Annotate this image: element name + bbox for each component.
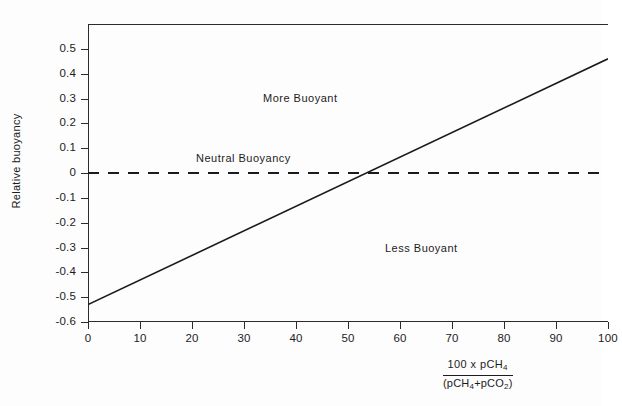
y-axis-tick-label: 0.4 [30, 68, 76, 80]
y-axis-tick-label-text: 0.5 [36, 43, 76, 55]
y-axis-tick-label-text: -0.2 [36, 217, 76, 229]
y-axis-tick-label: -0.2 [30, 217, 76, 229]
y-axis-tick-label-text: -0.1 [36, 192, 76, 204]
y-axis-tick-label-text: 0.4 [36, 68, 76, 80]
x-axis-tick [140, 322, 141, 329]
x-axis-tick-label: 70 [432, 332, 472, 345]
x-axis-tick-label: 60 [380, 332, 420, 345]
x-axis-tick-label: 50 [328, 332, 368, 345]
relative-buoyancy-solid-line [88, 59, 608, 305]
x-axis-denominator-mid: +pCO [474, 377, 504, 389]
x-axis-tick [556, 322, 557, 329]
x-axis-tick-label: 80 [484, 332, 524, 345]
y-axis-title: Relative buoyancy [10, 101, 22, 221]
x-axis-tick-label: 20 [172, 332, 212, 345]
y-axis-tick-label: -0.6 [30, 316, 76, 328]
x-axis-tick-label: 30 [224, 332, 264, 345]
y-axis-tick-label: -0.3 [30, 242, 76, 254]
x-axis-tick-label: 0 [68, 332, 108, 345]
x-axis-title-numerator: 100 x pCH4 [443, 358, 513, 376]
x-axis-tick [192, 322, 193, 329]
y-axis-tick-label: 0.2 [30, 117, 76, 129]
y-axis-tick-label-text: -0.3 [36, 242, 76, 254]
y-axis-tick-label: 0.3 [30, 93, 76, 105]
y-axis-tick-label-text: 0.2 [36, 117, 76, 129]
x-axis-tick [244, 322, 245, 329]
x-axis-title: 100 x pCH4 (pCH4+pCO2) [443, 358, 513, 393]
x-axis-denominator-close: ) [509, 377, 513, 389]
annotation-more-buoyant: More Buoyant [263, 92, 337, 104]
y-axis-tick-label-text: 0 [36, 167, 76, 179]
y-axis-tick-label: -0.1 [30, 192, 76, 204]
x-axis-numerator-subscript: 4 [503, 363, 508, 372]
y-axis-tick-label: 0.5 [30, 43, 76, 55]
plot-canvas [88, 24, 608, 322]
x-axis-tick [452, 322, 453, 329]
y-axis-tick-label: -0.5 [30, 291, 76, 303]
x-axis-tick-label: 90 [536, 332, 576, 345]
x-axis-tick-label: 10 [120, 332, 160, 345]
y-axis-tick-label-text: 0.1 [36, 142, 76, 154]
x-axis-tick [348, 322, 349, 329]
x-axis-tick [296, 322, 297, 329]
x-axis-tick-label: 40 [276, 332, 316, 345]
x-axis-numerator-text: 100 x pCH [448, 358, 504, 370]
x-axis-tick [400, 322, 401, 329]
annotation-less-buoyant: Less Buoyant [385, 242, 458, 254]
x-axis-tick [504, 322, 505, 329]
x-axis-denominator-open: (pCH [443, 377, 469, 389]
y-axis-tick-label-text: 0.3 [36, 93, 76, 105]
x-axis-tick [608, 322, 609, 329]
y-axis-tick-label-text: -0.5 [36, 291, 76, 303]
x-axis-title-denominator: (pCH4+pCO2) [443, 376, 513, 393]
y-axis-tick-label: -0.4 [30, 266, 76, 278]
y-axis-tick-label: 0 [30, 167, 76, 179]
annotation-neutral-buoyancy: Neutral Buoyancy [196, 152, 291, 164]
y-axis-tick-label: 0.1 [30, 142, 76, 154]
y-axis-tick-label-text: -0.4 [36, 266, 76, 278]
y-axis-tick-label-text: -0.6 [36, 316, 76, 328]
x-axis-tick [88, 322, 89, 329]
x-axis-tick-label: 100 [588, 332, 622, 345]
